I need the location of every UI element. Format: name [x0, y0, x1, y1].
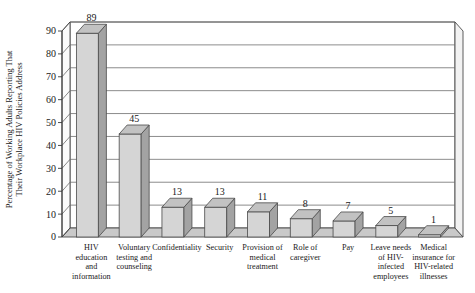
y-axis-tick-label: 80: [46, 48, 56, 59]
category-label: HIV-related: [414, 262, 453, 271]
category-label: caregiver: [290, 253, 321, 262]
category-label: HIV: [84, 243, 99, 252]
y-axis-tick-label: 20: [46, 186, 56, 197]
bar-3d: [205, 198, 235, 237]
category-label: Voluntary: [118, 243, 151, 252]
y-axis-tick-label: 0: [51, 231, 56, 242]
category-label: information: [72, 272, 111, 281]
chart-canvas: 0102030405060708090 89451313118751 HIVed…: [0, 0, 475, 293]
bar-front-face: [162, 207, 184, 237]
plot-right-wall: [455, 22, 463, 237]
bar-front-face: [376, 226, 398, 237]
category-label: Provision of: [242, 243, 283, 252]
y-axis-tick-label: 90: [46, 25, 56, 36]
bar-3d: [162, 198, 192, 237]
y-axis-tick-label: 70: [46, 71, 56, 82]
y-axis-tick-label: 40: [46, 140, 56, 151]
category-label: treatment: [247, 262, 279, 271]
bar-3d: [76, 24, 106, 237]
bar-front-face: [119, 134, 141, 237]
y-axis-title-line: Percentage of Working Adults Reporting T…: [4, 50, 14, 208]
bar-3d: [119, 125, 149, 237]
bar-value-label: 13: [215, 186, 225, 197]
category-label: counseling: [116, 262, 151, 271]
bar-front-face: [333, 221, 355, 237]
y-axis-tick-label: 10: [46, 209, 56, 220]
bar-value-label: 13: [172, 186, 182, 197]
bar-front-face: [248, 212, 270, 237]
category-label: Medical: [420, 243, 448, 252]
bar-value-label: 1: [431, 214, 436, 225]
category-label: Confidentiality: [152, 243, 202, 252]
y-axis-tick-label: 50: [46, 117, 56, 128]
category-label: medical: [250, 253, 277, 262]
category-label: testing and: [116, 253, 152, 262]
bar-front-face: [205, 207, 227, 237]
category-label: insurance for: [412, 253, 455, 262]
bar-side-face: [98, 24, 106, 237]
y-axis-title-line: Their Workplace HIV Policies Address: [14, 62, 24, 197]
y-axis-title: Percentage of Working Adults Reporting T…: [4, 50, 24, 208]
category-label: Security: [206, 243, 234, 252]
bar-front-face: [290, 219, 312, 237]
bar-3d: [333, 212, 363, 237]
bar-chart-figure: 0102030405060708090 89451313118751 HIVed…: [0, 0, 475, 293]
category-label: Pay: [342, 243, 355, 252]
bar-value-label: 5: [388, 205, 393, 216]
bar-value-label: 11: [258, 191, 268, 202]
bar-value-label: 7: [346, 200, 351, 211]
bar-3d: [290, 210, 320, 237]
category-label: Leave needs: [370, 243, 411, 252]
bar-3d: [248, 203, 278, 237]
category-label: Role of: [293, 243, 318, 252]
plot-left-wall: [62, 22, 70, 237]
category-label: and: [85, 262, 97, 271]
bar-value-label: 8: [303, 198, 308, 209]
category-label: education: [75, 253, 107, 262]
bar-value-label: 89: [86, 12, 96, 23]
y-axis-tick-label: 30: [46, 163, 56, 174]
bar-front-face: [76, 33, 98, 237]
y-axis-tick-label: 60: [46, 94, 56, 105]
category-label: employees: [373, 272, 408, 281]
bar-value-label: 45: [129, 113, 139, 124]
category-label: of HIV-: [378, 253, 404, 262]
bar-side-face: [141, 125, 149, 237]
category-label: infected: [378, 262, 404, 271]
category-label: illnesses: [420, 272, 448, 281]
